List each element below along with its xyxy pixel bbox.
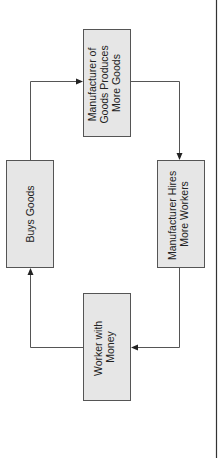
- node-manufacturer-produces: Manufacturer of Goods Produces More Good…: [84, 30, 131, 137]
- edge-hires-to-worker: [137, 268, 180, 348]
- svg-text:Buys Goods: Buys Goods: [24, 185, 36, 242]
- arrow-head-icon: [177, 153, 183, 160]
- arrow-head-icon: [131, 345, 138, 351]
- node-buys-goods: Buys Goods: [7, 161, 54, 268]
- node-label-line: Manufacturer Hires: [166, 171, 178, 260]
- edge-buys-to-produces: [31, 82, 78, 161]
- cycle-diagram: Manufacturer of Goods Produces More Good…: [0, 0, 221, 464]
- node-label-line: Manufacturer of: [86, 48, 98, 122]
- node-manufacturer-hires: Manufacturer Hires More Workers: [158, 161, 205, 268]
- node-label-line: Money: [104, 330, 116, 362]
- edge-worker-to-buys: [31, 274, 84, 348]
- node-worker-money: Worker with Money: [84, 294, 131, 401]
- arrow-head-icon: [28, 268, 34, 275]
- edge-produces-to-hires: [130, 82, 180, 155]
- svg-text:Manufacturer Hires More: Manufacturer Hires More Workers: [166, 168, 190, 260]
- node-label-line: More Goods: [110, 54, 122, 112]
- svg-text:Manufacturer of Goods Pr: Manufacturer of Goods Produces More Good…: [86, 42, 122, 123]
- arrow-head-icon: [76, 79, 83, 85]
- node-label-line: More Workers: [178, 181, 190, 247]
- node-label-line: Goods Produces: [98, 45, 110, 123]
- node-label-line: Worker with: [92, 321, 104, 376]
- node-label-line: Buys Goods: [24, 185, 36, 242]
